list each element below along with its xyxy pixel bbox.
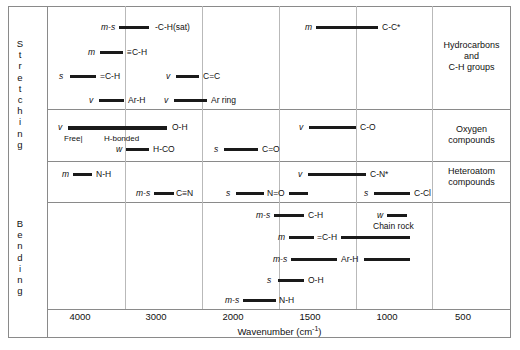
band-c-c — [316, 26, 378, 29]
intensity-no: s — [226, 189, 230, 198]
label-ar-h: Ar-H — [128, 96, 145, 105]
gridline-3000 — [125, 6, 126, 309]
label-bend-ch: C-H — [308, 211, 323, 220]
axis-tick-500: 500 — [455, 311, 471, 322]
band-c-n — [308, 173, 366, 176]
label-bend-arh: Ar-H — [341, 255, 358, 264]
label-ch-sat: -C-H(sat) — [155, 23, 190, 32]
axis-title-close: ) — [318, 326, 321, 337]
band-ar-h — [99, 99, 124, 102]
band-no-secondary — [289, 192, 308, 195]
band-nh-str — [73, 173, 92, 176]
label-c-cl: C-Cl — [414, 189, 431, 198]
band-bend-arh-secondary — [364, 258, 410, 261]
label-c-n: C-N* — [370, 170, 388, 179]
label-cc-alkyne: C=C — [203, 72, 220, 81]
band-ch-alkene — [70, 75, 96, 78]
intensity-cc-alkyne: v — [166, 72, 170, 81]
label-oh-free: Free| — [64, 134, 83, 143]
band-bend-oh — [278, 279, 304, 282]
band-bend-ch — [274, 214, 304, 217]
label-oh-hbonded: H-bonded — [104, 134, 139, 143]
intensity-bend-ech: m — [278, 233, 285, 242]
group-label-heteroatom: Heteroatom compounds — [432, 166, 511, 188]
intensity-bend-oh: s — [267, 276, 271, 285]
label-c-o-dbl: C=O — [262, 145, 280, 154]
group-label-line: Oxygen — [432, 124, 511, 135]
label-ar-ring: Ar ring — [211, 96, 236, 105]
x-axis: 4000 3000 2000 1500 1000 500 Wavenumber … — [48, 309, 511, 338]
label-c-o-sgl: C-O — [360, 123, 376, 132]
intensity-bend-ch: m-s — [256, 211, 270, 220]
gridline-500 — [432, 6, 433, 309]
intensity-chain-rock: w — [377, 211, 383, 220]
band-ch-sat — [119, 26, 149, 29]
intensity-c-n: v — [298, 170, 302, 179]
left-label-stretching: Stretching — [0, 38, 40, 150]
group-label-line: and — [432, 51, 511, 62]
band-bend-ech-secondary — [341, 236, 410, 239]
band-no-primary — [236, 192, 264, 195]
left-label-bending: Bending — [0, 218, 40, 296]
gridline-2000 — [202, 6, 203, 309]
group-label-line: compounds — [432, 177, 511, 188]
band-c-o-sgl — [309, 126, 356, 129]
label-cn-trip: C≡N — [176, 189, 193, 198]
axis-title-text: Wavenumber (cm — [237, 326, 312, 337]
band-c-o-dbl — [224, 148, 258, 151]
label-h-co: H-CO — [153, 145, 175, 154]
intensity-bend-arh: m-s — [273, 255, 287, 264]
label-c-c: C-C* — [382, 23, 400, 32]
axis-tick-3000: 3000 — [145, 311, 166, 322]
group-label-oxygen: Oxygen compounds — [432, 124, 511, 146]
group-label-line: Hydrocarbons — [432, 40, 511, 51]
axis-tick-1000: 1000 — [376, 311, 397, 322]
band-cn-trip — [154, 192, 174, 195]
label-no: N=O — [267, 189, 285, 198]
intensity-ch-alkyne: m — [88, 48, 95, 57]
intensity-oh: v — [58, 123, 62, 132]
group-label-hydrocarbons: Hydrocarbons and C-H groups — [432, 40, 511, 73]
label-bend-ech: =C-H — [317, 233, 337, 242]
intensity-ar-h: v — [89, 96, 93, 105]
group-label-line: Heteroatom — [432, 166, 511, 177]
band-h-co — [126, 148, 149, 151]
intensity-cn-trip: m-s — [136, 189, 150, 198]
band-ch-alkyne — [100, 51, 123, 54]
intensity-c-o-sgl: v — [299, 123, 303, 132]
band-c-cl — [374, 192, 410, 195]
label-bend-oh: O-H — [308, 276, 324, 285]
group-label-line: compounds — [432, 135, 511, 146]
intensity-nh-str: m — [62, 170, 69, 179]
intensity-c-c: m — [305, 23, 312, 32]
intensity-h-co: w — [116, 145, 122, 154]
axis-tick-1500: 1500 — [299, 311, 320, 322]
intensity-ar-ring: v — [164, 96, 168, 105]
ir-correlation-chart: Stretching Bending Hydrocarbons and C-H … — [0, 0, 520, 350]
label-nh-str: N-H — [96, 170, 111, 179]
band-bend-ech-primary — [289, 236, 314, 239]
label-oh: O-H — [172, 123, 188, 132]
label-ch-alkene: =C-H — [100, 72, 120, 81]
intensity-ch-sat: m-s — [101, 23, 115, 32]
band-oh — [68, 126, 167, 130]
label-ch-alkyne: ≡C-H — [127, 48, 147, 57]
plot-area: m-s -C-H(sat) m ≡C-H s =C-H v C=C v Ar-H… — [48, 6, 432, 309]
band-chain-rock — [387, 214, 407, 217]
band-bend-nh — [243, 299, 276, 302]
axis-tick-2000: 2000 — [222, 311, 243, 322]
label-chain-rock: Chain rock — [373, 222, 414, 231]
group-label-line: C-H groups — [432, 62, 511, 73]
intensity-c-o-dbl: s — [214, 145, 218, 154]
intensity-c-cl: s — [364, 189, 368, 198]
band-bend-arh-primary — [291, 258, 337, 261]
axis-tick-4000: 4000 — [69, 311, 90, 322]
intensity-ch-alkene: s — [59, 72, 63, 81]
band-cc-alkyne — [176, 75, 199, 78]
band-ar-ring — [174, 99, 207, 102]
label-bend-nh: N-H — [279, 296, 294, 305]
axis-title: Wavenumber (cm-1) — [48, 325, 511, 337]
intensity-bend-nh: m-s — [225, 296, 239, 305]
